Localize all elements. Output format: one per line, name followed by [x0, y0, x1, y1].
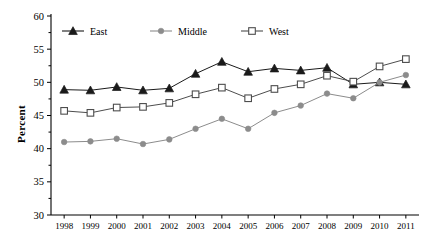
legend-item-east[interactable]: East [62, 26, 107, 37]
line-chart: Percent 30354045505560199819992000200120… [0, 0, 429, 248]
data-point-west-2010 [376, 63, 383, 70]
data-point-west-2009 [350, 78, 357, 85]
plot-area: 3035404550556019981999200020012002200320… [0, 0, 429, 248]
data-point-middle-2011 [403, 72, 409, 78]
data-point-west-1999 [87, 110, 94, 117]
data-point-west-2000 [113, 104, 120, 111]
data-point-west-2011 [403, 56, 410, 63]
series-east [60, 57, 410, 93]
y-axis-tick-label: 40 [34, 143, 45, 154]
data-point-east-2004 [218, 57, 227, 65]
data-point-middle-1999 [88, 139, 94, 145]
data-point-west-1998 [61, 108, 68, 115]
data-point-middle-2005 [245, 126, 251, 132]
x-axis-tick-label: 2004 [213, 221, 232, 231]
y-axis-tick-label: 45 [34, 110, 45, 121]
x-axis-tick-label: 2008 [318, 221, 337, 231]
data-point-west-2004 [219, 84, 226, 91]
data-point-middle-2003 [193, 126, 199, 132]
data-point-west-2002 [166, 100, 173, 107]
legend-item-west[interactable]: West [241, 26, 289, 37]
x-axis-tick-label: 2000 [108, 221, 127, 231]
x-axis-tick-label: 2010 [371, 221, 390, 231]
data-point-middle-2010 [377, 80, 383, 86]
legend-marker-middle [158, 28, 164, 34]
data-point-middle-2008 [324, 91, 330, 97]
x-axis-tick-label: 2001 [134, 221, 152, 231]
data-point-west-2005 [245, 95, 252, 102]
data-point-east-2003 [191, 69, 200, 77]
data-point-east-2008 [323, 63, 332, 71]
data-point-west-2003 [192, 91, 199, 98]
data-point-middle-2001 [140, 141, 146, 147]
x-axis-tick-label: 2007 [292, 221, 311, 231]
data-point-east-2002 [165, 84, 174, 92]
data-point-middle-2009 [350, 95, 356, 101]
x-axis-tick-label: 1999 [81, 221, 100, 231]
data-point-middle-1998 [61, 139, 67, 145]
x-axis-tick-label: 2009 [344, 221, 363, 231]
legend-marker-west [249, 28, 256, 35]
legend-label-west: West [269, 26, 289, 37]
legend-item-middle[interactable]: Middle [150, 26, 207, 37]
x-axis-tick-label: 2006 [265, 221, 284, 231]
y-axis-tick-label: 35 [34, 176, 45, 187]
data-point-middle-2006 [272, 110, 278, 116]
legend-label-middle: Middle [178, 26, 207, 37]
data-point-west-2006 [271, 86, 278, 93]
x-axis-tick-label: 1998 [55, 221, 74, 231]
data-point-east-2006 [270, 64, 279, 72]
y-axis-tick-label: 30 [34, 210, 45, 221]
x-axis-tick-label: 2011 [397, 221, 415, 231]
x-axis-tick-label: 2003 [187, 221, 206, 231]
data-point-middle-2002 [166, 137, 172, 143]
data-point-west-2008 [324, 72, 331, 79]
data-point-middle-2004 [219, 116, 225, 122]
y-axis-tick-label: 55 [34, 44, 45, 55]
x-axis-tick-label: 2005 [239, 221, 258, 231]
legend-label-east: East [90, 26, 107, 37]
data-point-west-2001 [140, 104, 147, 111]
data-point-middle-2007 [298, 103, 304, 109]
data-point-west-2007 [297, 81, 304, 88]
y-axis-tick-label: 50 [34, 77, 45, 88]
data-point-middle-2000 [114, 136, 120, 142]
x-axis-tick-label: 2002 [160, 221, 178, 231]
data-point-east-2000 [112, 83, 121, 91]
y-axis-tick-label: 60 [34, 11, 45, 22]
